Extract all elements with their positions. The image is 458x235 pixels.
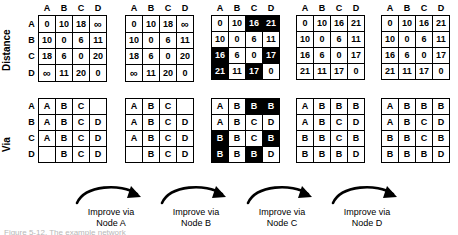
matrix-row: BCD xyxy=(112,147,194,163)
matrix-cell: A xyxy=(39,131,56,147)
matrix-cell: B xyxy=(348,131,365,147)
step-caption-line-1: Improve via xyxy=(234,207,330,218)
matrix-cell: B xyxy=(56,131,73,147)
matrix-cell-highlighted: B xyxy=(212,147,229,163)
matrix-cell: B xyxy=(229,131,246,147)
row-header-spacer xyxy=(112,16,126,33)
matrix-cell: D xyxy=(263,147,280,163)
matrix-cell: 0 xyxy=(143,33,160,49)
matrix-cell: 0 xyxy=(229,32,246,48)
matrix-row: BBBD xyxy=(198,147,280,163)
matrix-cell: 0 xyxy=(382,16,399,32)
matrix-cell: 11 xyxy=(314,64,331,80)
step-caption-line-1: Improve via xyxy=(319,207,415,218)
matrix-row: AABC xyxy=(25,99,107,115)
matrix-cell: B xyxy=(297,147,314,163)
step-caption: Improve viaNode A xyxy=(63,207,159,229)
matrix-cell: 11 xyxy=(143,65,160,82)
matrix-cell-highlighted: 21 xyxy=(212,64,229,80)
via-after-a-table: ABCABCDABCDBCD xyxy=(112,98,194,163)
matrix-cell: 10 xyxy=(399,16,416,32)
column-header-D: D xyxy=(348,2,365,16)
row-header-spacer xyxy=(283,99,297,115)
matrix-cell: 0 xyxy=(331,48,348,64)
via-after-b: ABBBABCDBBCBBBBD xyxy=(198,98,280,163)
row-header-spacer xyxy=(368,32,382,48)
column-header-row: ABCD xyxy=(112,2,194,16)
column-header-B: B xyxy=(229,2,246,16)
matrix-row: 2111170 xyxy=(368,64,450,80)
matrix-cell-highlighted: 17 xyxy=(246,64,263,80)
row-header-spacer xyxy=(198,64,212,80)
via-after-d: ABBBABCDBBCBBBBD xyxy=(368,98,450,163)
matrix-row: B100611 xyxy=(25,33,107,49)
improve-step-4: Improve viaNode D xyxy=(319,183,415,229)
matrix-cell: 0 xyxy=(73,49,90,65)
row-header-D: D xyxy=(25,147,39,163)
matrix-row: 2111170 xyxy=(283,64,365,80)
matrix-cell: 20 xyxy=(90,49,107,65)
row-header-B: B xyxy=(25,115,39,131)
matrix-cell: 21 xyxy=(348,16,365,32)
matrix-corner xyxy=(25,2,39,16)
matrix-cell: D xyxy=(177,115,194,131)
matrix-row: 0101621 xyxy=(368,16,450,32)
matrix-cell: 6 xyxy=(331,32,348,48)
matrix-cell: B xyxy=(56,99,73,115)
matrix-cell: A xyxy=(212,115,229,131)
matrix-cell: B xyxy=(399,115,416,131)
matrix-cell: B xyxy=(331,99,348,115)
matrix-cell-highlighted: 16 xyxy=(246,16,263,32)
matrix-cell: 20 xyxy=(177,49,194,65)
matrix-row: C186020 xyxy=(25,49,107,65)
matrix-cell: B xyxy=(348,99,365,115)
matrix-cell: D xyxy=(348,147,365,163)
matrix-row: 0101621 xyxy=(198,16,280,32)
section-label-distance: Distance xyxy=(1,14,12,86)
via-after-b-table: ABBBABCDBBCBBBBD xyxy=(198,98,280,163)
via-after-a: ABCABCDABCDBCD xyxy=(112,98,194,163)
step-caption-line-1: Improve via xyxy=(63,207,159,218)
matrix-row: 186020 xyxy=(112,49,194,65)
distance-after-d-table: ABCD01016211006111660172111170 xyxy=(368,2,450,80)
matrix-cell: 18 xyxy=(39,49,56,65)
via-after-d-table: ABBBABCDBBCBBBBD xyxy=(368,98,450,163)
matrix-cell: D xyxy=(90,115,107,131)
row-header-spacer xyxy=(112,33,126,49)
matrix-row: ∞11200 xyxy=(112,65,194,82)
matrix-cell: C xyxy=(416,131,433,147)
row-header-spacer xyxy=(368,48,382,64)
row-header-spacer xyxy=(283,48,297,64)
matrix-cell: 0 xyxy=(263,64,280,80)
floyd-warshall-figure: Distance Via ABCDA01018∞B100611C186020D∞… xyxy=(0,0,458,235)
matrix-cell: ∞ xyxy=(90,16,107,33)
matrix-cell: B xyxy=(314,147,331,163)
matrix-cell-highlighted: B xyxy=(212,131,229,147)
matrix-cell: C xyxy=(246,115,263,131)
matrix-row: BBBD xyxy=(368,147,450,163)
matrix-cell: 16 xyxy=(331,16,348,32)
distance-after-b-table: ABCD01016211006111660172111170 xyxy=(198,2,280,80)
row-header-spacer xyxy=(198,16,212,32)
row-header-spacer xyxy=(368,99,382,115)
matrix-cell: 6 xyxy=(160,33,177,49)
row-header-spacer xyxy=(198,115,212,131)
column-header-D: D xyxy=(90,2,107,16)
matrix-cell: ∞ xyxy=(126,65,143,82)
column-header-C: C xyxy=(416,2,433,16)
matrix-cell: 11 xyxy=(263,32,280,48)
step-caption-line-2: Node B xyxy=(148,218,244,229)
column-header-A: A xyxy=(382,2,399,16)
row-header-spacer xyxy=(368,64,382,80)
via-initial-table: AABCBABCDCABCDDBCD xyxy=(25,98,107,163)
matrix-cell: 10 xyxy=(382,32,399,48)
matrix-row: CABCD xyxy=(25,131,107,147)
matrix-cell: 0 xyxy=(160,49,177,65)
matrix-cell: 16 xyxy=(416,16,433,32)
matrix-cell-highlighted: B xyxy=(246,147,263,163)
curved-arrow-icon xyxy=(156,183,236,207)
matrix-cell: 10 xyxy=(126,33,143,49)
matrix-cell: A xyxy=(39,115,56,131)
matrix-cell: 10 xyxy=(212,32,229,48)
matrix-cell: 10 xyxy=(39,33,56,49)
